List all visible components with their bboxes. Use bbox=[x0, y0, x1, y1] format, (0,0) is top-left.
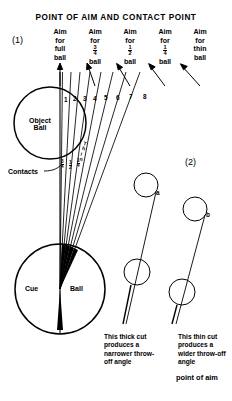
aim-col-line1: Aim bbox=[45, 28, 75, 37]
fraction-denominator: 4 bbox=[77, 163, 80, 168]
aim-number-6: 6 bbox=[116, 94, 120, 101]
figure-1-label: (1) bbox=[12, 36, 23, 45]
aim-number-7: 7 bbox=[129, 93, 133, 100]
figure-2-label: (2) bbox=[185, 158, 196, 167]
thin-cut-caption: This thin cut produces a wider throw-off… bbox=[178, 333, 232, 367]
fraction-denominator: 2 bbox=[69, 165, 72, 170]
aim-col-fraction: 1 2 bbox=[115, 45, 145, 58]
object-ball-label-line2: Ball bbox=[22, 124, 58, 131]
contact-fraction-1-2: 1 2 bbox=[69, 161, 72, 170]
aim-column-full-ball: Aim for full ball bbox=[45, 28, 75, 62]
object-ball-label: Object Ball bbox=[22, 117, 58, 131]
thin-cut-aim-line bbox=[176, 215, 205, 324]
aim-number-1: 1 bbox=[64, 96, 68, 103]
cue-ball-label-left: Cue bbox=[25, 285, 38, 292]
aim-col-fraction: 3 4 bbox=[80, 45, 110, 58]
aim-column-three-quarter-ball: Aim for 3 4 ball bbox=[80, 28, 110, 66]
aim-column-thin-ball: Aim for thin ball bbox=[185, 28, 215, 62]
thin-cut-object-ball bbox=[183, 197, 207, 221]
aim-col-line4: ball bbox=[80, 58, 110, 67]
aim-col-line3: thin bbox=[185, 45, 215, 54]
aim-number-3: 3 bbox=[83, 95, 87, 102]
aim-col-line1: Aim bbox=[80, 28, 110, 37]
aim-col-line1: Aim bbox=[150, 28, 180, 37]
aim-col-line4: ball bbox=[115, 58, 145, 67]
contacts-label: Contacts bbox=[8, 168, 38, 175]
aim-col-fraction: 1 4 bbox=[150, 45, 180, 58]
thick-cut-caption: This thick cut produces a narrower throw… bbox=[104, 333, 162, 367]
diagram-canvas: POINT OF AIM AND CONTACT POINT (1) (2) A… bbox=[0, 0, 232, 401]
contact-point-b-label: b bbox=[206, 211, 210, 218]
aim-column-half-ball: Aim for 1 2 ball bbox=[115, 28, 145, 66]
aim-column-quarter-ball: Aim for 1 4 ball bbox=[150, 28, 180, 66]
point-of-aim-caption: point of aim bbox=[176, 374, 218, 382]
aim-col-line4: ball bbox=[150, 58, 180, 67]
aim-col-line2: for bbox=[45, 37, 75, 46]
page-title: POINT OF AIM AND CONTACT POINT bbox=[36, 14, 197, 23]
thick-cut-aim-line bbox=[126, 192, 156, 324]
object-ball-label-line1: Object bbox=[22, 117, 58, 124]
cue-ball-label-right: Ball bbox=[70, 285, 83, 292]
thin-cut-travel-line bbox=[172, 305, 177, 324]
aim-number-2: 2 bbox=[73, 95, 77, 102]
contact-fraction-3-4: 3 4 bbox=[61, 160, 64, 169]
aim-col-line1: Aim bbox=[185, 28, 215, 37]
thick-cut-cue-ball bbox=[124, 259, 150, 285]
fraction-denominator: 2 bbox=[128, 50, 131, 56]
contact-point-a-label: a bbox=[156, 189, 160, 196]
aim-col-line4: ball bbox=[45, 54, 75, 63]
aim-number-5: 5 bbox=[104, 94, 108, 101]
contacts-leader-line bbox=[44, 164, 62, 171]
aim-col-line4: ball bbox=[185, 54, 215, 63]
fraction-denominator: 4 bbox=[93, 50, 96, 56]
aim-col-line3: full bbox=[45, 45, 75, 54]
fraction-denominator: 4 bbox=[61, 164, 64, 169]
aim-number-8: 8 bbox=[143, 93, 147, 100]
thick-cut-object-ball bbox=[134, 173, 158, 197]
fraction-denominator: 4 bbox=[163, 50, 166, 56]
aim-col-line1: Aim bbox=[115, 28, 145, 37]
aim-col-line2: for bbox=[185, 37, 215, 46]
aim-number-4: 4 bbox=[93, 95, 97, 102]
